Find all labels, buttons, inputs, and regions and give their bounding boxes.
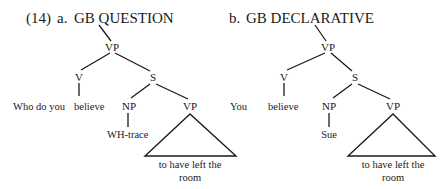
node-s: S xyxy=(150,71,156,83)
edge-vp-to-v xyxy=(81,53,110,70)
edge-title-to-root xyxy=(99,25,111,41)
node-np: NP xyxy=(322,100,336,112)
example-number: (14) xyxy=(26,10,51,27)
leaf-pre-verb: You xyxy=(230,101,248,112)
edge-title-to-root xyxy=(315,25,326,41)
edge-vp-to-v xyxy=(287,53,325,70)
edge-s-to-vp xyxy=(358,84,390,99)
edge-s-to-np xyxy=(333,84,352,98)
leaf-verb: believe xyxy=(268,101,299,112)
leaf-vp2-line1: to have left the xyxy=(362,159,425,170)
tree-a-gb-question: (14) a. GB QUESTION VP V S Who do you be… xyxy=(13,10,236,183)
edge-vp-to-s xyxy=(115,53,150,71)
edge-vp-to-s xyxy=(331,53,352,71)
node-vp2: VP xyxy=(183,100,197,112)
leaf-vp2-line1: to have left the xyxy=(159,159,222,170)
leaf-np: WH-trace xyxy=(107,129,149,140)
node-v: V xyxy=(280,71,288,83)
tree-a-title: GB QUESTION xyxy=(74,10,174,26)
leaf-np: Sue xyxy=(321,129,337,140)
tree-b-label: b. xyxy=(229,10,240,26)
leaf-vp2-line2: room xyxy=(382,172,404,183)
edge-s-to-vp xyxy=(156,84,188,99)
node-np: NP xyxy=(122,100,136,112)
syntax-tree-figure: (14) a. GB QUESTION VP V S Who do you be… xyxy=(0,0,447,189)
node-root-vp: VP xyxy=(321,41,335,53)
tree-a-label: a. xyxy=(57,10,67,26)
tree-b-title: GB DECLARATIVE xyxy=(246,10,374,26)
node-s: S xyxy=(352,71,358,83)
leaf-vp2-line2: room xyxy=(179,172,201,183)
tree-b-gb-declarative: b. GB DECLARATIVE VP V S You believe NP … xyxy=(229,10,435,183)
leaf-verb: believe xyxy=(74,101,105,112)
triangle-vp-abbreviation xyxy=(348,114,435,156)
node-root-vp: VP xyxy=(105,41,119,53)
leaf-pre-verb: Who do you xyxy=(13,101,66,112)
node-v: V xyxy=(75,71,83,83)
triangle-vp-abbreviation xyxy=(145,114,236,156)
node-vp2: VP xyxy=(386,100,400,112)
edge-s-to-np xyxy=(131,84,150,98)
